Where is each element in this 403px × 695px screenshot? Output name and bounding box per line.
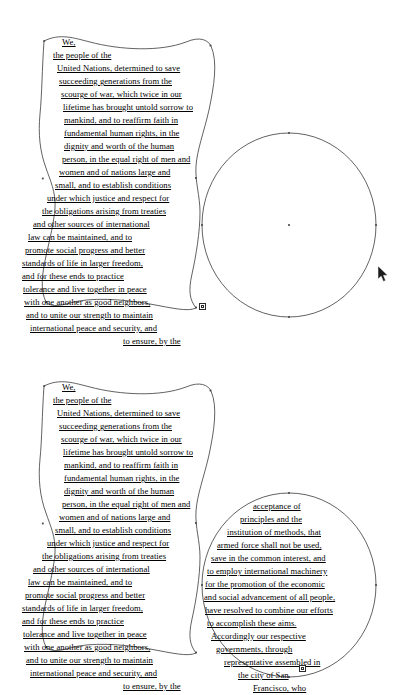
text-line: United Nations, determined to save	[57, 407, 180, 420]
text-line: scourge of war, which twice in our	[61, 433, 182, 446]
text-line: Francisco, who	[253, 682, 306, 695]
text-line: international peace and security, and	[30, 667, 157, 680]
text-line: fundamental human rights, in the	[64, 127, 179, 140]
text-line: the city of San	[238, 669, 289, 682]
text-line: tolerance and live together in peace	[23, 628, 147, 641]
text-line: tolerance and live together in peace	[23, 283, 147, 296]
text-line: small, and to establish conditions	[55, 524, 171, 537]
text-line: standards of life in larger freedom,	[22, 257, 143, 270]
text-line: person, in the equal right of men and	[62, 153, 190, 166]
text-line: and to unite our strength to maintain	[26, 654, 153, 667]
text-line: and social advancement of all people,	[204, 591, 335, 604]
text-line: succeeding generations from the	[59, 420, 172, 433]
text-line: acceptance of	[253, 500, 301, 513]
text-line: succeeding generations from the	[59, 75, 172, 88]
text-line: dignity and worth of the human	[64, 140, 174, 153]
overflow-inner-square	[301, 667, 304, 670]
text-line: and for these ends to practice	[22, 615, 124, 628]
text-line: standards of life in larger freedom,	[22, 602, 143, 615]
text-line: United Nations, determined to save	[57, 62, 180, 75]
text-line: institution of methods, that	[227, 526, 321, 539]
text-line: the obligations arising from treaties	[42, 205, 166, 218]
text-line: scourge of war, which twice in our	[61, 88, 182, 101]
text-line: and to unite our strength to maintain	[26, 309, 153, 322]
text-line: under which justice and respect for	[47, 192, 169, 205]
area-type-text-bottom[interactable]: We, the people of the United Nations, de…	[0, 345, 210, 685]
text-line: armed force shall not be used,	[217, 539, 322, 552]
text-overflow-marker[interactable]	[199, 303, 206, 310]
text-line: for the promotion of the economic	[205, 578, 325, 591]
text-line: We,	[62, 381, 76, 394]
text-line: to accomplish these aims.	[207, 617, 297, 630]
text-line: mankind, and to reaffirm faith in	[64, 114, 178, 127]
text-line: and for these ends to practice	[22, 270, 124, 283]
text-line: Accordingly our respective	[211, 630, 306, 643]
text-line: women and of nations large and	[59, 511, 170, 524]
text-line: mankind, and to reaffirm faith in	[64, 459, 178, 472]
text-line: person, in the equal right of men and	[62, 498, 190, 511]
text-line: We,	[62, 36, 76, 49]
text-line: the obligations arising from treaties	[42, 550, 166, 563]
text-line: and other sources of international	[33, 563, 150, 576]
text-line: promote social progress and better	[25, 244, 145, 257]
text-line: women and of nations large and	[59, 166, 170, 179]
panel-before-threading: We, the people of the United Nations, de…	[0, 0, 403, 345]
text-line: and other sources of international	[33, 218, 150, 231]
text-line: the people of the	[53, 394, 111, 407]
text-line: have resolved to combine our efforts	[205, 604, 333, 617]
text-line: to employ international machinery	[207, 565, 327, 578]
text-line: with one another as good neighbors,	[24, 641, 150, 654]
text-line: law can be maintained, and to	[28, 231, 132, 244]
text-line: dignity and worth of the human	[64, 485, 174, 498]
overflow-inner-square	[201, 305, 204, 308]
text-line: lifetime has brought untold sorrow to	[63, 101, 193, 114]
text-line: small, and to establish conditions	[55, 179, 171, 192]
text-overflow-marker[interactable]	[299, 665, 306, 672]
text-line: with one another as good neighbors,	[24, 296, 150, 309]
text-line: law can be maintained, and to	[28, 576, 132, 589]
text-line: lifetime has brought untold sorrow to	[63, 446, 193, 459]
text-line: the people of the	[53, 49, 111, 62]
panel-after-threading: We, the people of the United Nations, de…	[0, 345, 403, 691]
text-line: principles and the	[240, 513, 302, 526]
text-line: to ensure, by the	[123, 680, 181, 693]
text-line: fundamental human rights, in the	[64, 472, 179, 485]
text-line: save in the common interest, and	[211, 552, 326, 565]
text-line: promote social progress and better	[25, 589, 145, 602]
area-type-text-top[interactable]: We, the people of the United Nations, de…	[0, 0, 210, 340]
text-line: under which justice and respect for	[47, 537, 169, 550]
ellipse-type-text-bottom[interactable]: acceptance of principles and the institu…	[0, 345, 9, 568]
mouse-cursor	[378, 266, 389, 283]
text-line: international peace and security, and	[30, 322, 157, 335]
text-line: governments, through	[216, 643, 292, 656]
